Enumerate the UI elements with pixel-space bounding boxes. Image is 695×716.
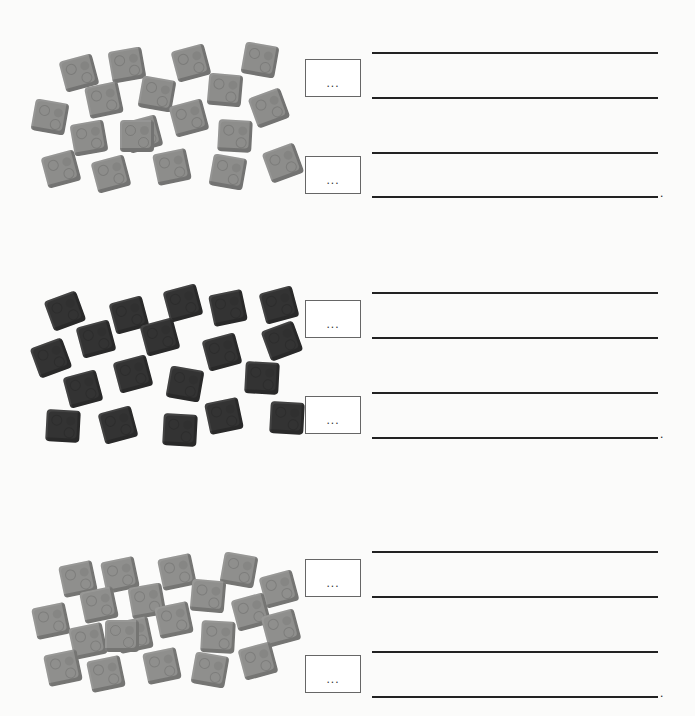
lego-brick-icon [261,320,304,362]
lego-brick-icon [162,413,198,447]
lego-brick-icon [154,601,194,639]
lego-brick-icon [237,641,278,681]
writing-line[interactable] [372,292,658,294]
lego-brick-icon [208,153,247,190]
lego-brick-icon [208,289,248,327]
lego-brick-icon [262,142,305,184]
writing-line[interactable] [372,596,658,598]
lego-brick-icon [201,332,242,372]
lego-brick-icon [90,154,131,194]
writing-line[interactable] [372,52,658,54]
writing-line[interactable] [372,392,658,394]
lego-brick-icon [244,361,280,395]
writing-line[interactable] [372,337,658,339]
lego-brick-icon [97,405,138,445]
lego-brick-icon [43,649,83,687]
lego-brick-icon [45,409,81,443]
lego-brick-icon [168,98,209,138]
writing-line[interactable] [372,152,658,154]
lego-brick-icon [217,119,253,153]
answer-placeholder: ... [306,76,360,90]
lego-brick-icon [31,602,71,640]
lego-brick-icon [86,655,126,693]
lego-brick-icon [248,87,291,129]
answer-placeholder: ... [306,317,360,331]
answer-box-group-2-bottom[interactable]: ... [305,396,361,434]
lego-brick-icon [269,401,305,435]
lego-brick-icon [200,620,236,654]
lego-brick-icon [107,46,146,83]
lego-brick-icon [142,647,182,685]
lego-brick-icon [30,337,73,379]
writing-line[interactable] [372,97,658,99]
lego-brick-icon [120,120,154,152]
lego-brick-icon [112,354,153,394]
answer-placeholder: ... [306,413,360,427]
lego-brick-icon [258,285,299,325]
lego-brick-icon [75,319,116,359]
lego-brick-icon [190,579,227,614]
lego-brick-icon [207,73,244,108]
lego-brick-icon [204,397,244,435]
answer-box-group-1-bottom[interactable]: ... [305,156,361,194]
writing-line[interactable] [372,651,658,653]
lego-brick-icon [30,98,69,135]
writing-line[interactable] [372,437,658,439]
answer-box-group-1-top[interactable]: ... [305,59,361,97]
lego-brick-icon [105,620,139,652]
answer-placeholder: ... [306,173,360,187]
lego-brick-icon [170,43,211,83]
period-mark: . [660,427,663,441]
lego-brick-icon [165,365,204,402]
answer-box-group-3-bottom[interactable]: ... [305,655,361,693]
lego-brick-icon [62,369,103,409]
lego-brick-icon [139,317,180,357]
lego-brick-icon [240,41,279,78]
writing-line[interactable] [372,551,658,553]
answer-box-group-2-top[interactable]: ... [305,300,361,338]
writing-line[interactable] [372,696,658,698]
lego-brick-icon [84,81,124,119]
lego-brick-icon [69,119,108,156]
answer-box-group-3-top[interactable]: ... [305,559,361,597]
period-mark: . [660,686,663,700]
writing-line[interactable] [372,196,658,198]
lego-brick-icon [190,651,229,688]
period-mark: . [660,186,663,200]
answer-placeholder: ... [306,672,360,686]
lego-brick-icon [79,586,119,624]
answer-placeholder: ... [306,576,360,590]
lego-brick-icon [152,148,192,186]
